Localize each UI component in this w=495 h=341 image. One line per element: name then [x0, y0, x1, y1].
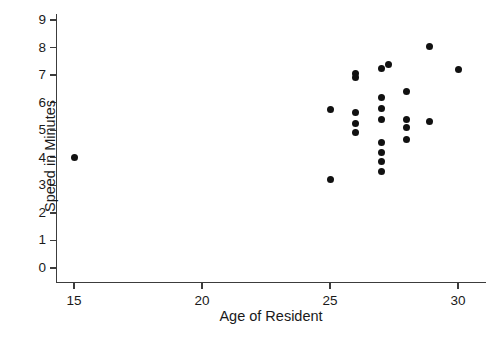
data-point [378, 116, 385, 123]
data-point [352, 109, 359, 116]
data-point [327, 106, 334, 113]
plot-area [0, 0, 495, 341]
data-point [426, 43, 433, 50]
data-point [352, 120, 359, 127]
data-point [403, 88, 410, 95]
data-point [352, 129, 359, 136]
data-point [403, 136, 410, 143]
data-point [327, 176, 334, 183]
data-point [385, 61, 392, 68]
data-point [378, 149, 385, 156]
data-point [426, 118, 433, 125]
data-point [455, 66, 462, 73]
data-point [378, 158, 385, 165]
data-point [378, 168, 385, 175]
data-point [352, 74, 359, 81]
data-point [378, 65, 385, 72]
data-point [378, 94, 385, 101]
data-point [378, 105, 385, 112]
data-point [403, 116, 410, 123]
data-point [378, 139, 385, 146]
scatter-chart-figure: 0123456789 15202530 Speed in Minutes Age… [0, 0, 495, 341]
data-point [71, 154, 78, 161]
data-point [403, 124, 410, 131]
